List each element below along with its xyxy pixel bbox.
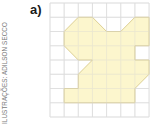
grid-figure [0,0,154,128]
